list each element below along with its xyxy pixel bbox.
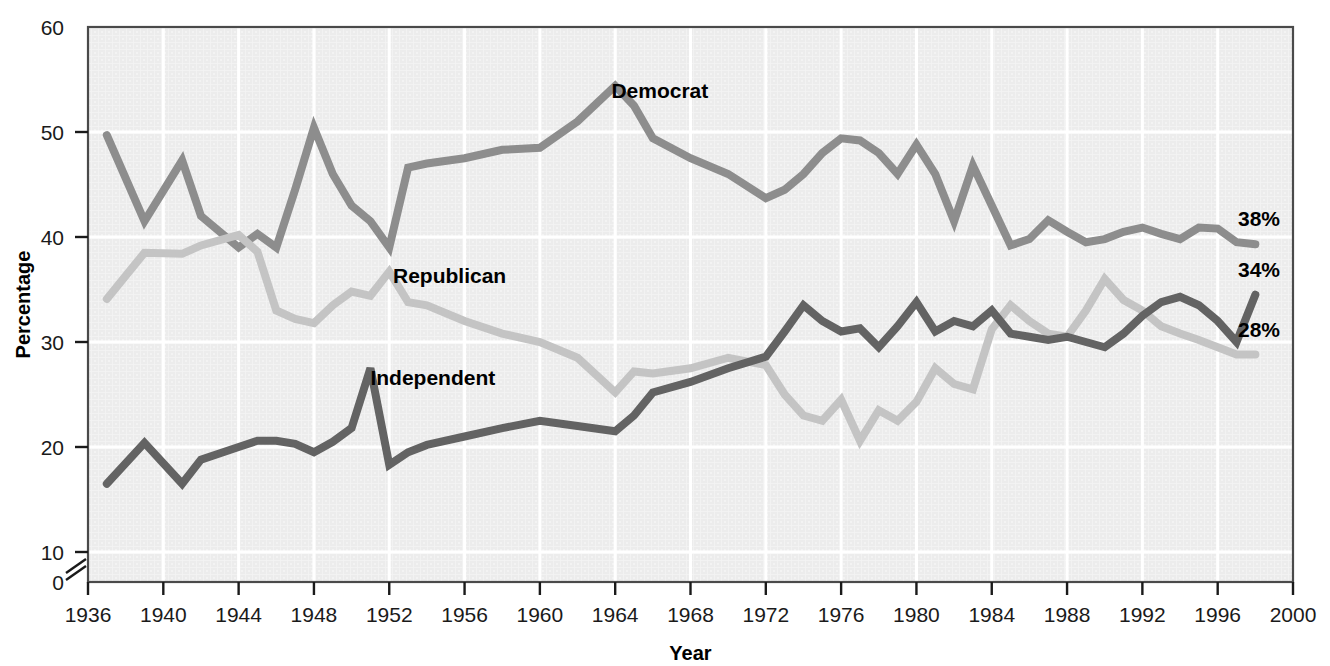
x-tick-label: 1984	[968, 603, 1015, 626]
x-tick-label: 1952	[366, 603, 413, 626]
series-label-republican: Republican	[393, 264, 506, 287]
y-tick-label: 40	[41, 226, 64, 249]
end-label-republican: 28%	[1238, 318, 1280, 341]
x-tick-label: 1944	[215, 603, 262, 626]
end-labels: 38%28%34%	[1238, 207, 1280, 340]
y-tick-label: 50	[41, 121, 64, 144]
x-tick-label: 1988	[1044, 603, 1091, 626]
end-label-democrat: 38%	[1238, 207, 1280, 230]
y-tick-label: 10	[41, 541, 64, 564]
x-tick-label: 1940	[140, 603, 187, 626]
x-tick-label: 1948	[291, 603, 338, 626]
x-tick-label: 1968	[667, 603, 714, 626]
x-tick-label: 2000	[1270, 603, 1317, 626]
series-label-democrat: Democrat	[611, 79, 708, 102]
x-axis-title: Year	[669, 642, 711, 664]
y-tick-label: 60	[41, 16, 64, 39]
x-axis: 1936194019441948195219561960196419681972…	[65, 582, 1317, 626]
series-label-independent: Independent	[370, 366, 495, 389]
x-tick-label: 1976	[818, 603, 865, 626]
y-axis-title: Percentage	[12, 251, 34, 359]
end-label-independent: 34%	[1238, 258, 1280, 281]
party-identification-line-chart: 0102030405060193619401944194819521956196…	[0, 0, 1330, 666]
chart-canvas: 0102030405060193619401944194819521956196…	[0, 0, 1330, 666]
x-tick-label: 1960	[517, 603, 564, 626]
y-tick-label: 0	[52, 571, 64, 594]
x-tick-label: 1980	[893, 603, 940, 626]
y-tick-label: 20	[41, 436, 64, 459]
x-tick-label: 1936	[65, 603, 112, 626]
y-tick-label: 30	[41, 331, 64, 354]
x-tick-label: 1972	[742, 603, 789, 626]
x-tick-label: 1996	[1194, 603, 1241, 626]
x-tick-label: 1992	[1119, 603, 1166, 626]
x-tick-label: 1956	[441, 603, 488, 626]
y-axis-break-icon	[66, 559, 86, 580]
x-tick-label: 1964	[592, 603, 639, 626]
y-axis: 0102030405060	[41, 16, 88, 594]
